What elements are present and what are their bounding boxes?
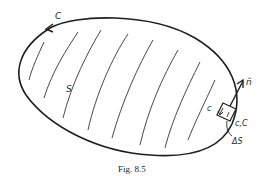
area-element-square <box>217 103 236 121</box>
figure-caption: Fig. 8.5 <box>118 164 146 174</box>
label-n-hat: n̂ <box>246 77 252 87</box>
label-c: C <box>55 11 62 21</box>
label-delta-s: ΔS <box>231 137 243 146</box>
label-s: S <box>66 84 72 94</box>
normal-vector-arrow <box>229 81 243 108</box>
label-element-edge-boundary: c,C <box>235 119 248 128</box>
boundary-curve-c <box>19 18 237 156</box>
label-element-edge-c: c <box>207 104 212 113</box>
surface-hatching <box>29 30 215 148</box>
stokes-theorem-diagram: C S n̂ c c,C ΔS Fig. 8.5 <box>0 0 265 176</box>
